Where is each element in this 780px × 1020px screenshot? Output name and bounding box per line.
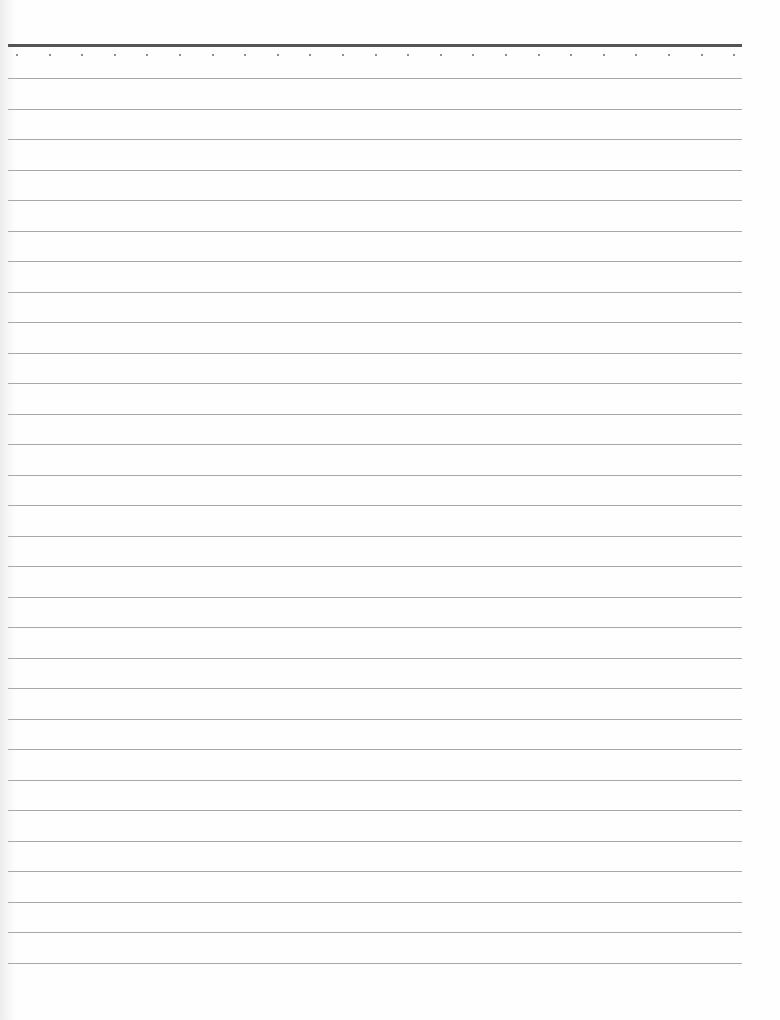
ruled-line [8,109,742,110]
ruled-line [8,261,742,262]
ruled-line [8,566,742,567]
margin-dot [212,54,214,56]
ruled-line [8,200,742,201]
ruled-line [8,780,742,781]
ruled-line [8,536,742,537]
margin-dot [277,54,279,56]
margin-dot [603,54,605,56]
ruled-line [8,749,742,750]
margin-dot [505,54,507,56]
margin-dot [309,54,311,56]
ruled-line [8,963,742,964]
ruled-line [8,322,742,323]
margin-dot [16,54,18,56]
ruled-line [8,444,742,445]
ruled-line [8,505,742,506]
ruled-line [8,841,742,842]
ruled-line [8,353,742,354]
ruled-line [8,627,742,628]
margin-dot [668,54,670,56]
ruled-line [8,292,742,293]
margin-dot [375,54,377,56]
ruled-line [8,475,742,476]
margin-dot [701,54,703,56]
margin-dot [407,54,409,56]
margin-dot [49,54,51,56]
ruled-line [8,719,742,720]
margin-dot [472,54,474,56]
ruled-line [8,932,742,933]
margin-dot [538,54,540,56]
lined-paper-page [0,0,780,1020]
ruled-line [8,810,742,811]
margin-dot [81,54,83,56]
margin-dot [114,54,116,56]
ruled-line [8,78,742,79]
ruled-line [8,383,742,384]
header-rule [8,44,742,47]
ruled-line [8,170,742,171]
margin-dot [342,54,344,56]
margin-dot [244,54,246,56]
ruled-line [8,597,742,598]
margin-dot [146,54,148,56]
ruled-line [8,139,742,140]
ruled-line [8,871,742,872]
margin-dot [570,54,572,56]
ruled-line [8,231,742,232]
margin-dot [179,54,181,56]
ruled-line [8,902,742,903]
ruled-line [8,688,742,689]
margin-dot [440,54,442,56]
margin-dot [635,54,637,56]
margin-dot [733,54,735,56]
ruled-line [8,658,742,659]
ruled-line [8,414,742,415]
scan-edge-shadow [0,0,16,1020]
